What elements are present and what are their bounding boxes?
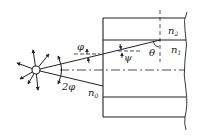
- light-cone: [40, 40, 160, 86]
- n2-label: n2: [168, 25, 178, 37]
- psi-arrow-icon: [120, 44, 121, 49]
- source-point-icon: [32, 66, 40, 74]
- break-line: [184, 12, 187, 130]
- two-phi-label: 2φ: [61, 81, 75, 92]
- phi-label: φ: [77, 41, 84, 52]
- optical-fiber-diagram: φ ψ θ 2φ n0 n2 n1: [0, 0, 199, 140]
- phi-arrow-lower-icon: [88, 58, 89, 63]
- n1-label: n1: [171, 44, 181, 56]
- n0-label: n0: [88, 87, 98, 99]
- psi-label: ψ: [124, 52, 132, 63]
- theta-label: θ: [149, 47, 155, 58]
- light-source: [17, 50, 49, 90]
